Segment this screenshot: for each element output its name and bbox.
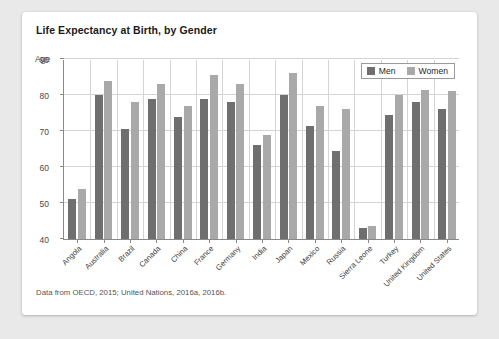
y-axis-tick: [60, 94, 64, 95]
x-axis-tick-label: Germany: [214, 244, 242, 272]
x-axis-tick-label: France: [192, 244, 215, 267]
bar-men: [227, 102, 235, 239]
x-axis-tick-label: Australia: [83, 244, 110, 271]
bar-women: [263, 135, 271, 239]
category-separator: [222, 60, 223, 239]
category-separator: [328, 60, 329, 239]
category-separator: [354, 60, 355, 239]
category-separator: [170, 60, 171, 239]
legend-item-men: Men: [367, 66, 396, 76]
x-axis-tick: [77, 239, 78, 243]
y-axis-tick-label: 70: [40, 127, 49, 137]
bar-women: [448, 91, 456, 239]
chart-legend: Men Women: [361, 63, 455, 79]
bar-women: [210, 75, 218, 239]
bar-men: [438, 109, 446, 239]
x-axis-tick: [236, 239, 237, 243]
y-axis-tick: [60, 166, 64, 167]
gridline: [64, 58, 459, 59]
legend-label-men: Men: [379, 66, 396, 76]
bar-women: [342, 109, 350, 239]
y-axis-tick-label: 50: [40, 199, 49, 209]
category-separator: [249, 60, 250, 239]
category-separator: [143, 60, 144, 239]
x-axis-tick: [156, 239, 157, 243]
bar-women: [104, 81, 112, 239]
bar-men: [280, 95, 288, 239]
x-axis-tick: [130, 239, 131, 243]
category-separator: [275, 60, 276, 239]
chart-plot: 405060708090 AngolaAustraliaBrazilCanada…: [63, 60, 459, 240]
y-axis-tick-label: 60: [40, 163, 49, 173]
figure-card: Life Expectancy at Birth, by Gender Age …: [22, 12, 477, 315]
x-axis-tick-label: Russia: [325, 244, 348, 267]
y-axis-tick-label: 40: [40, 235, 49, 245]
bar-women: [78, 189, 86, 239]
x-axis-tick: [394, 239, 395, 243]
bar-women: [289, 73, 297, 239]
bar-women: [131, 102, 139, 239]
x-axis-tick-label: Angola: [60, 244, 83, 267]
y-axis-tick: [60, 58, 64, 59]
y-axis-tick: [60, 238, 64, 239]
x-axis-tick: [288, 239, 289, 243]
legend-label-women: Women: [419, 66, 448, 76]
bar-men: [174, 117, 182, 239]
x-axis-tick-label: India: [250, 244, 268, 262]
x-axis-tick-label: Canada: [138, 244, 163, 269]
x-axis-tick: [420, 239, 421, 243]
bar-men: [359, 228, 367, 239]
legend-swatch-men-icon: [367, 67, 375, 75]
x-axis-tick: [315, 239, 316, 243]
category-separator: [381, 60, 382, 239]
bar-women: [236, 84, 244, 239]
x-axis-tick: [368, 239, 369, 243]
bar-men: [253, 145, 261, 239]
bar-men: [332, 151, 340, 239]
x-axis-tick: [209, 239, 210, 243]
bar-women: [184, 106, 192, 239]
category-separator: [302, 60, 303, 239]
bar-women: [421, 90, 429, 239]
bar-men: [95, 95, 103, 239]
y-axis-tick-label: 80: [40, 91, 49, 101]
legend-item-women: Women: [407, 66, 448, 76]
bar-men: [200, 99, 208, 239]
bar-women: [316, 106, 324, 239]
x-axis-tick-label: Mexico: [298, 244, 321, 267]
bar-women: [157, 84, 165, 239]
bar-women: [368, 226, 376, 239]
page-title: Life Expectancy at Birth, by Gender: [36, 24, 217, 36]
legend-swatch-women-icon: [407, 67, 415, 75]
y-axis-tick: [60, 202, 64, 203]
bar-men: [385, 115, 393, 239]
source-note: Data from OECD, 2015; United Nations, 20…: [36, 288, 226, 297]
bar-men: [121, 129, 129, 239]
y-axis-tick: [60, 130, 64, 131]
bar-men: [68, 199, 76, 239]
bar-men: [148, 99, 156, 239]
category-separator: [117, 60, 118, 239]
x-axis-tick: [262, 239, 263, 243]
bar-men: [412, 102, 420, 239]
x-axis-tick-label: Japan: [274, 244, 295, 265]
y-axis-tick-label: 90: [40, 55, 49, 65]
category-separator: [196, 60, 197, 239]
x-axis-tick-label: Brazil: [117, 244, 137, 264]
bar-men: [306, 126, 314, 239]
plot-area: 405060708090 AngolaAustraliaBrazilCanada…: [63, 60, 459, 240]
x-axis-tick-label: China: [169, 244, 189, 264]
bar-women: [395, 95, 403, 239]
category-separator: [434, 60, 435, 239]
x-axis-tick: [341, 239, 342, 243]
x-axis-tick: [183, 239, 184, 243]
category-separator: [90, 60, 91, 239]
category-separator: [407, 60, 408, 239]
x-axis-tick-label: Turkey: [378, 244, 401, 267]
